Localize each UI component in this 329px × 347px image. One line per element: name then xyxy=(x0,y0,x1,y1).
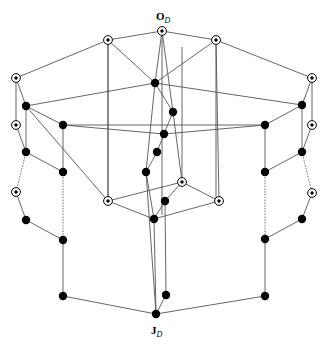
node-right-outer-4-dot xyxy=(298,148,306,156)
edge-IR1-c3 xyxy=(164,125,265,134)
node-inner-left-1-dot xyxy=(59,121,67,129)
edge-bx_l-L2 xyxy=(26,106,108,201)
node-right-outer-3-dot xyxy=(310,123,313,126)
node-right-outer-1[interactable] xyxy=(308,74,317,83)
node-inner-right-4-dot xyxy=(261,292,269,300)
edge-top-c1 xyxy=(155,31,162,83)
node-left-outer-5-dot xyxy=(14,190,17,193)
edge-L4-IL2 xyxy=(26,152,63,172)
edge-IR4-bot xyxy=(156,296,265,314)
node-center-3[interactable] xyxy=(160,130,168,138)
node-center-5[interactable] xyxy=(142,168,150,176)
node-innerbox-bottom[interactable] xyxy=(150,215,158,223)
node-center-4-dot xyxy=(153,148,161,156)
node-innerbox-bottom-dot xyxy=(150,215,158,223)
edge-bx_l-bx_t xyxy=(108,182,182,201)
edge-bx_t-bx_r xyxy=(182,182,219,201)
node-innerbox-left[interactable] xyxy=(104,197,113,206)
edge-top-a1 xyxy=(108,31,162,40)
edge-L6-IL3 xyxy=(26,220,63,240)
node-upper-left-dot xyxy=(106,38,109,41)
node-right-outer-6[interactable] xyxy=(298,215,306,223)
node-left-outer-4-dot xyxy=(22,148,30,156)
edge-c1-R2 xyxy=(155,83,302,105)
edge-IL1-c3 xyxy=(63,125,164,134)
node-upper-right-dot xyxy=(214,38,217,41)
edge-top-a2 xyxy=(162,31,216,40)
node-left-outer-3[interactable] xyxy=(12,121,21,130)
edge-L2-IL1 xyxy=(26,106,63,125)
node-right-outer-6-dot xyxy=(298,215,306,223)
edge-R4-R5 xyxy=(302,152,312,193)
node-center-2[interactable] xyxy=(169,108,177,116)
node-layer xyxy=(12,27,317,319)
edge-R2-IR1 xyxy=(265,105,302,125)
node-inner-right-3[interactable] xyxy=(261,235,269,243)
edge-R6-IR3 xyxy=(265,219,302,239)
node-center-5-dot xyxy=(142,168,150,176)
node-inner-right-1[interactable] xyxy=(261,121,269,129)
node-bottom-center-upper[interactable] xyxy=(162,291,170,299)
node-left-outer-4[interactable] xyxy=(22,148,30,156)
edge-R4-IR2 xyxy=(265,152,302,172)
edge-a2-R1 xyxy=(216,40,312,78)
node-center-3-dot xyxy=(160,130,168,138)
node-left-outer-1-dot xyxy=(14,76,17,79)
edge-a1-L1 xyxy=(16,40,108,78)
node-left-outer-6[interactable] xyxy=(22,216,30,224)
node-inner-right-1-dot xyxy=(261,121,269,129)
edge-c2-bx_t xyxy=(173,112,182,182)
node-top-O[interactable] xyxy=(158,27,167,36)
node-right-outer-1-dot xyxy=(310,76,313,79)
lattice-svg: OD JD xyxy=(0,0,329,347)
node-left-outer-3-dot xyxy=(14,123,17,126)
label-bottom-element: JD xyxy=(151,324,163,339)
node-innerbox-top[interactable] xyxy=(178,178,187,187)
node-inner-left-3[interactable] xyxy=(59,236,67,244)
node-center-4[interactable] xyxy=(153,148,161,156)
node-top-O-dot xyxy=(160,29,163,32)
label-top-element: OD xyxy=(156,10,171,25)
node-bottom-center-upper-dot xyxy=(162,291,170,299)
node-center-1[interactable] xyxy=(151,79,159,87)
node-left-outer-2-dot xyxy=(22,102,30,110)
edge-c1-L2 xyxy=(26,83,155,106)
node-innerbox-center[interactable] xyxy=(161,197,169,205)
node-innerbox-center-dot xyxy=(161,197,169,205)
node-innerbox-right-dot xyxy=(217,199,220,202)
node-right-outer-5[interactable] xyxy=(308,189,317,198)
node-inner-left-4-dot xyxy=(59,292,67,300)
node-inner-right-2[interactable] xyxy=(261,168,269,176)
node-innerbox-right[interactable] xyxy=(215,197,224,206)
node-upper-left[interactable] xyxy=(104,36,113,45)
node-innerbox-top-dot xyxy=(180,180,183,183)
edge-c1-c2 xyxy=(155,83,173,112)
hasse-diagram: OD JD xyxy=(0,0,329,347)
node-inner-left-1[interactable] xyxy=(59,121,67,129)
node-inner-right-4[interactable] xyxy=(261,292,269,300)
edge-L4-L5 xyxy=(16,152,26,192)
node-inner-left-3-dot xyxy=(59,236,67,244)
node-right-outer-3[interactable] xyxy=(308,121,317,130)
node-inner-right-2-dot xyxy=(261,168,269,176)
node-center-2-dot xyxy=(169,108,177,116)
edge-IL4-bot xyxy=(63,296,156,314)
edge-c5-bx_b xyxy=(146,172,154,219)
node-bottom-J[interactable] xyxy=(152,310,160,318)
node-left-outer-1[interactable] xyxy=(12,74,21,83)
node-inner-left-2-dot xyxy=(59,168,67,176)
node-right-outer-2[interactable] xyxy=(298,101,306,109)
node-right-outer-2-dot xyxy=(298,101,306,109)
node-left-outer-6-dot xyxy=(22,216,30,224)
node-bottom-J-dot xyxy=(152,310,160,318)
node-upper-right[interactable] xyxy=(212,36,221,45)
edge-bx_l-bx_b xyxy=(108,201,154,219)
node-inner-left-4[interactable] xyxy=(59,292,67,300)
node-left-outer-5[interactable] xyxy=(12,188,21,197)
node-innerbox-left-dot xyxy=(106,199,109,202)
node-left-outer-2[interactable] xyxy=(22,102,30,110)
node-right-outer-4[interactable] xyxy=(298,148,306,156)
node-center-1-dot xyxy=(151,79,159,87)
edge-a1-c1 xyxy=(108,40,155,83)
node-inner-left-2[interactable] xyxy=(59,168,67,176)
